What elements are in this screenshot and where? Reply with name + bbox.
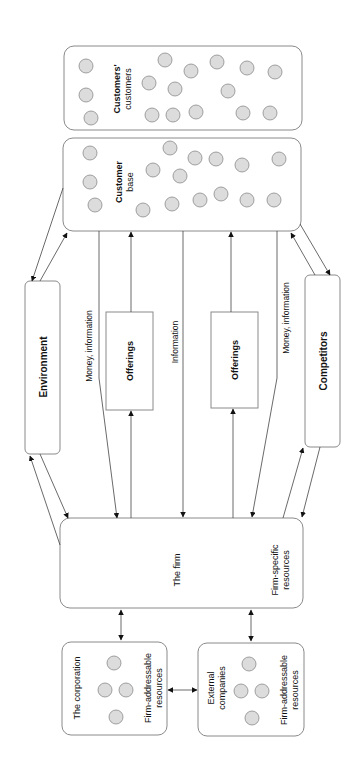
edge-firm-to-competitors	[283, 448, 303, 518]
competitors-node: Competitors	[305, 275, 340, 447]
offerings-node-1: Offerings	[106, 312, 153, 410]
competitors-label: Competitors	[318, 331, 329, 390]
diagram: Customers' customers Customer base Envir…	[0, 0, 360, 777]
edge-label-money-info-2: Money, information	[281, 282, 291, 354]
offerings-label-1: Offerings	[125, 341, 135, 381]
edge-competitors-to-firm	[302, 447, 320, 517]
external-label-2: companies	[217, 666, 227, 710]
customers-customers-label-2: customers	[123, 68, 133, 110]
edge-customer-base-to-competitors	[300, 224, 330, 275]
customer-base-label-2: base	[125, 172, 135, 192]
edge-env-to-customer-base	[40, 233, 67, 281]
edge-env-to-firm	[40, 454, 68, 518]
customer-base-node: Customer base	[63, 138, 301, 231]
offerings-label-2: Offerings	[230, 340, 240, 380]
offerings-node-2: Offerings	[211, 312, 258, 408]
corporation-sub-2: resources	[154, 668, 164, 708]
edge-label-information: Information	[170, 320, 180, 363]
external-sub-1: Firm-addressable	[279, 655, 289, 725]
edges	[30, 188, 330, 690]
environment-label: Environment	[38, 336, 49, 398]
corporation-label: The corporation	[72, 656, 82, 719]
external-sub-2: resources	[290, 670, 300, 710]
external-companies-node: External companies Firm-addressable reso…	[198, 643, 304, 736]
corporation-node: The corporation Firm-addressable resourc…	[62, 642, 167, 735]
customer-base-label-1: Customer	[114, 161, 124, 204]
customers-customers-node: Customers' customers	[64, 46, 302, 130]
edge-label-money-info-1: Money, information	[84, 310, 94, 382]
external-label-1: External	[206, 671, 216, 704]
corporation-sub-1: Firm-addressable	[143, 653, 153, 723]
edge-firm-to-env	[30, 456, 60, 545]
edge-competitors-to-customer-base	[291, 233, 315, 275]
the-firm-label: The firm	[172, 553, 182, 586]
environment-node: Environment	[25, 281, 60, 454]
the-firm-sub-1: Firm-specific	[270, 544, 280, 595]
the-firm-node: The firm Firm-specific resources	[60, 518, 303, 608]
customers-customers-label-1: Customers'	[112, 64, 122, 113]
the-firm-sub-2: resources	[281, 550, 291, 590]
